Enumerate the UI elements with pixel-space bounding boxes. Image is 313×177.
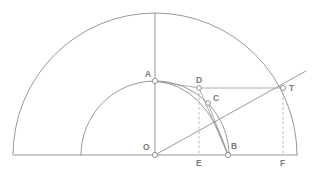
point-label-B: B — [231, 141, 237, 151]
point-label-A: A — [145, 69, 151, 79]
point-label-E: E — [196, 158, 202, 168]
vertex-dot-T — [280, 85, 285, 90]
point-label-C: C — [213, 93, 219, 103]
vertex-dot-C — [206, 101, 211, 106]
point-label-T: T — [289, 83, 295, 93]
diagram-canvas: A D C T O E B F — [0, 0, 313, 177]
vertex-dot-B — [225, 152, 230, 157]
vertex-dot-O — [152, 152, 157, 157]
point-label-D: D — [196, 75, 202, 85]
point-label-O: O — [143, 142, 150, 152]
geometric-construction-figure: A D C T O E B F — [0, 0, 313, 177]
vertex-dot-A — [152, 78, 157, 83]
point-label-F: F — [280, 158, 285, 168]
vertex-dot-D — [197, 86, 202, 91]
